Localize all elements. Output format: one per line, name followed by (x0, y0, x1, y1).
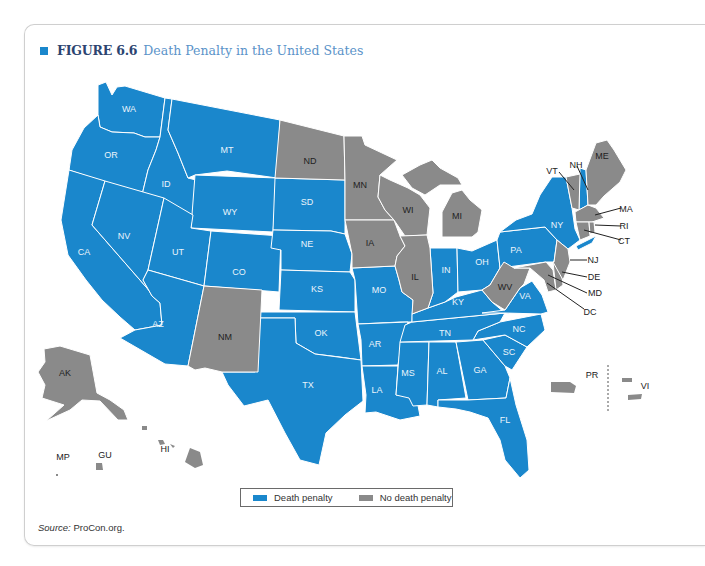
source-text: ProCon.org. (71, 522, 125, 533)
label-NV: NV (118, 231, 131, 241)
state-MI[interactable] (442, 190, 482, 237)
label-NC: NC (513, 324, 526, 334)
legend-label-death-penalty: Death penalty (274, 492, 333, 503)
legend-swatch-blue (253, 495, 267, 501)
label-VI: VI (641, 381, 650, 391)
label-IL: IL (411, 272, 419, 282)
legend-swatch-gray (359, 495, 373, 501)
label-MN: MN (353, 180, 367, 190)
label-AR: AR (369, 339, 382, 349)
label-MD: MD (588, 288, 602, 298)
label-MO: MO (372, 285, 387, 295)
state-PA[interactable] (497, 227, 557, 268)
label-OK: OK (314, 328, 327, 338)
label-ID: ID (162, 179, 172, 189)
label-GA: GA (473, 365, 486, 375)
label-IN: IN (442, 265, 451, 275)
label-MT: MT (221, 145, 234, 155)
state-ME[interactable] (586, 140, 626, 205)
label-MI: MI (452, 211, 462, 221)
state-CO[interactable] (204, 231, 281, 292)
state-NE[interactable] (271, 230, 352, 272)
label-TN: TN (439, 328, 451, 338)
label-KY: KY (452, 297, 464, 307)
label-SC: SC (503, 347, 516, 357)
label-WA: WA (122, 104, 136, 114)
label-DE: DE (588, 272, 601, 282)
label-CA: CA (78, 247, 91, 257)
state-ND[interactable] (275, 120, 345, 180)
label-MA: MA (619, 204, 633, 214)
territory-PR[interactable] (551, 382, 576, 393)
territory-GU[interactable] (96, 463, 103, 470)
label-VA: VA (519, 291, 530, 301)
state-MT[interactable] (168, 99, 280, 178)
map-legend: Death penalty No death penalty (240, 488, 453, 507)
label-OH: OH (475, 257, 489, 267)
state-AK[interactable] (38, 346, 128, 421)
label-GU: GU (98, 450, 112, 460)
label-LA: LA (371, 385, 382, 395)
label-AK: AK (59, 368, 71, 378)
label-SD: SD (301, 197, 314, 207)
label-NE: NE (301, 239, 314, 249)
label-NM: NM (218, 332, 232, 342)
source-note: Source: ProCon.org. (38, 522, 125, 533)
label-KS: KS (311, 284, 323, 294)
label-HI: HI (161, 444, 170, 454)
label-DC: DC (584, 307, 597, 317)
label-PA: PA (510, 245, 521, 255)
label-CT: CT (618, 236, 630, 246)
label-OR: OR (104, 150, 118, 160)
label-VT: VT (546, 166, 558, 176)
state-HI[interactable] (142, 426, 203, 468)
label-NY: NY (551, 220, 564, 230)
state-WY[interactable] (191, 175, 277, 232)
label-WY: WY (223, 207, 238, 217)
label-ME: ME (595, 151, 609, 161)
label-NH: NH (570, 160, 583, 170)
source-prefix: Source: (38, 522, 71, 533)
legend-label-no-death-penalty: No death penalty (380, 492, 452, 503)
label-AZ: AZ (152, 319, 164, 329)
territory-VI[interactable] (622, 378, 642, 400)
label-ND: ND (304, 156, 317, 166)
legend-item-death-penalty: Death penalty (253, 492, 333, 503)
label-IA: IA (366, 238, 375, 248)
label-MP: MP (56, 452, 70, 462)
label-NJ: NJ (588, 255, 599, 265)
label-WI: WI (403, 205, 414, 215)
label-WV: WV (498, 282, 513, 292)
label-RI: RI (620, 221, 629, 231)
label-AL: AL (436, 366, 447, 376)
territory-MP[interactable] (56, 474, 58, 476)
label-TX: TX (302, 380, 314, 390)
label-UT: UT (172, 247, 184, 257)
label-MS: MS (401, 368, 415, 378)
label-CO: CO (232, 267, 246, 277)
label-PR: PR (586, 370, 599, 380)
label-FL: FL (500, 415, 511, 425)
legend-item-no-death-penalty: No death penalty (359, 492, 452, 503)
